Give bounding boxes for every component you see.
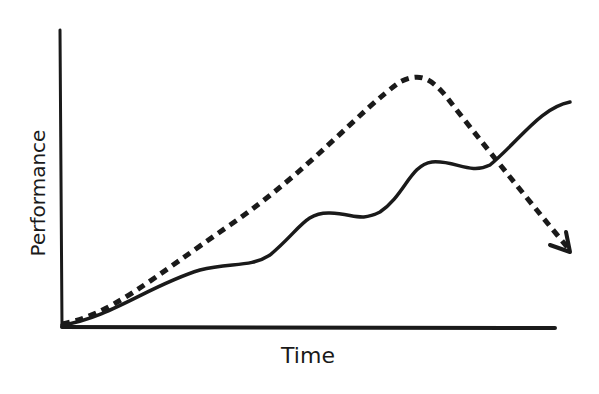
y-axis-label: Performance (26, 130, 50, 257)
y-axis (60, 30, 62, 327)
arrowhead-icon (550, 232, 570, 252)
x-axis (62, 327, 555, 328)
performance-time-diagram: Time Performance (0, 0, 599, 394)
x-axis-label: Time (280, 343, 335, 368)
solid-curve (62, 102, 570, 325)
dashed-curve (62, 77, 568, 324)
